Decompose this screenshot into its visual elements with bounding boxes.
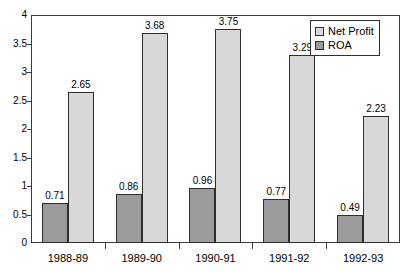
chart-legend: Net Profit ROA: [310, 20, 380, 56]
bar-net-profit[interactable]: [142, 33, 168, 243]
x-axis-category-label: 1989-90: [105, 252, 179, 265]
bar-roa[interactable]: [116, 194, 142, 243]
legend-label-roa: ROA: [328, 39, 352, 51]
x-axis-tick-mark: [326, 243, 327, 249]
x-axis-tick-mark: [252, 243, 253, 249]
x-axis-category-label: 1988-89: [31, 252, 105, 265]
bar-group: 0.863.68: [105, 15, 179, 243]
legend-item-net-profit: Net Profit: [315, 24, 374, 38]
bar-net-profit[interactable]: [68, 92, 94, 243]
legend-item-roa: ROA: [315, 38, 374, 52]
bar-group: 0.963.75: [179, 15, 253, 243]
bar-roa[interactable]: [337, 215, 363, 243]
x-axis-tick-mark: [105, 243, 106, 249]
legend-label-net-profit: Net Profit: [328, 25, 374, 37]
legend-swatch-net-profit-icon: [315, 27, 324, 36]
bar-net-profit[interactable]: [363, 116, 389, 243]
x-axis-tick-mark: [179, 243, 180, 249]
legend-swatch-roa-icon: [315, 41, 324, 50]
bar-value-label-net-profit: 3.68: [136, 21, 174, 31]
x-axis-category-label: 1991-92: [252, 252, 326, 265]
x-axis-tick-marks: [31, 243, 400, 250]
bar-net-profit[interactable]: [289, 55, 315, 243]
bar-net-profit[interactable]: [215, 29, 241, 243]
bar-value-label-net-profit: 2.65: [62, 80, 100, 90]
bar-roa[interactable]: [42, 203, 68, 243]
x-axis-category-label: 1992-93: [326, 252, 400, 265]
bar-chart: 00.511.522.533.54 0.712.650.863.680.963.…: [0, 0, 411, 274]
x-axis-category-label: 1990-91: [179, 252, 253, 265]
bar-value-label-net-profit: 2.23: [357, 104, 395, 114]
bar-roa[interactable]: [263, 199, 289, 243]
x-axis: 1988-891989-901990-911991-921992-93: [31, 252, 400, 268]
bar-value-label-net-profit: 3.75: [209, 17, 247, 27]
bar-roa[interactable]: [189, 188, 215, 243]
bar-group: 0.712.65: [31, 15, 105, 243]
